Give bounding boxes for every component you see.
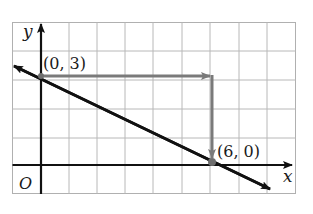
point-0-3: [38, 73, 44, 79]
point-6-0: [208, 158, 216, 166]
point-label-0-3: (0, 3): [43, 54, 86, 73]
point-label-6-0: (6, 0): [217, 142, 260, 161]
x-axis-label: x: [283, 166, 293, 186]
y-axis-label: y: [22, 21, 33, 41]
coordinate-plane: y x O (0, 3) (6, 0): [0, 0, 313, 214]
origin-label: O: [19, 174, 32, 193]
grid: [13, 23, 296, 194]
